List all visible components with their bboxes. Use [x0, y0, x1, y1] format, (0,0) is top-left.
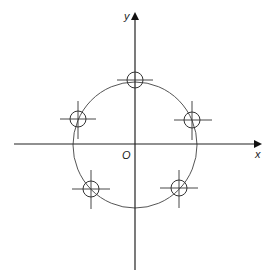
origin-label: O: [122, 149, 131, 161]
y-axis-label: y: [123, 10, 131, 22]
marker-lower-right: [160, 170, 198, 208]
x-axis-label: x: [254, 148, 261, 160]
marker-lower-left: [72, 170, 110, 209]
coordinate-diagram: y x O: [0, 0, 278, 279]
diagram-canvas: y x O: [0, 0, 278, 279]
marker-upper-left: [60, 101, 96, 139]
marker-upper-right: [174, 101, 212, 140]
